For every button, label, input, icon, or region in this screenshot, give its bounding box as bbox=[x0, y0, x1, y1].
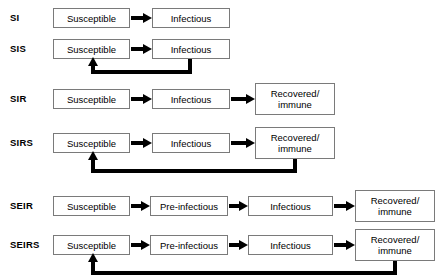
arrow-head-icon bbox=[141, 201, 150, 211]
box-seir-susceptible: Susceptible bbox=[53, 196, 130, 216]
box-sis-infectious: Infectious bbox=[152, 39, 230, 59]
loop-segment-vertical-target bbox=[91, 159, 95, 173]
box-seirs-recovered: Recovered/ immune bbox=[355, 229, 435, 261]
arrow-head-icon bbox=[143, 138, 152, 148]
row-label-sirs: SIRS bbox=[10, 138, 33, 148]
loop-segment-vertical-target bbox=[91, 261, 95, 275]
box-sirs-susceptible: Susceptible bbox=[53, 133, 130, 153]
row-label-seirs: SEIRS bbox=[10, 240, 40, 250]
arrow-head-icon bbox=[141, 240, 150, 250]
row-label-si: SI bbox=[10, 13, 19, 23]
box-sir-recovered: Recovered/ immune bbox=[255, 83, 335, 115]
arrow-head-icon bbox=[239, 240, 248, 250]
box-si-susceptible: Susceptible bbox=[53, 8, 130, 28]
arrow-head-icon bbox=[143, 94, 152, 104]
loop-segment-vertical-source bbox=[188, 59, 192, 74]
box-seirs-infectious: Infectious bbox=[248, 235, 333, 255]
arrow-head-icon bbox=[246, 94, 255, 104]
box-seirs-pre-infectious: Pre-infectious bbox=[150, 235, 228, 255]
arrow-head-icon bbox=[246, 138, 255, 148]
loop-segment-vertical-source bbox=[393, 261, 397, 275]
row-label-sir: SIR bbox=[10, 94, 26, 104]
box-seir-recovered: Recovered/ immune bbox=[355, 190, 435, 222]
arrow-shaft bbox=[231, 141, 247, 145]
box-sir-susceptible: Susceptible bbox=[53, 89, 130, 109]
box-seir-pre-infectious: Pre-infectious bbox=[150, 196, 228, 216]
loop-segment-horizontal bbox=[91, 271, 395, 275]
loop-segment-vertical-source bbox=[293, 159, 297, 173]
row-label-sis: SIS bbox=[10, 44, 26, 54]
box-sirs-recovered: Recovered/ immune bbox=[255, 127, 335, 159]
arrow-head-icon bbox=[239, 201, 248, 211]
row-label-seir: SEIR bbox=[10, 201, 33, 211]
arrow-head-icon bbox=[143, 44, 152, 54]
box-sir-infectious: Infectious bbox=[152, 89, 230, 109]
arrow-shaft bbox=[231, 97, 247, 101]
loop-segment-vertical-target bbox=[91, 65, 95, 74]
arrow-head-icon bbox=[346, 201, 355, 211]
arrow-head-icon bbox=[143, 13, 152, 23]
arrow-head-icon bbox=[346, 240, 355, 250]
box-sis-susceptible: Susceptible bbox=[53, 39, 130, 59]
box-sirs-infectious: Infectious bbox=[152, 133, 230, 153]
compartmental-model-diagram: SISusceptibleInfectiousSISSusceptibleInf… bbox=[0, 0, 443, 280]
box-si-infectious: Infectious bbox=[152, 8, 230, 28]
loop-segment-horizontal bbox=[91, 70, 190, 74]
loop-segment-horizontal bbox=[91, 169, 295, 173]
box-seir-infectious: Infectious bbox=[248, 196, 333, 216]
box-seirs-susceptible: Susceptible bbox=[53, 235, 130, 255]
